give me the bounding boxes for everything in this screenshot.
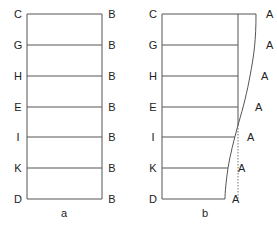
panel-b-left-label: E bbox=[149, 101, 156, 113]
panel-a-left-label: C bbox=[14, 8, 22, 20]
panel-b-right-label: A bbox=[238, 162, 246, 174]
panel-b-right-label: A bbox=[266, 39, 274, 51]
panel-a-left-label: I bbox=[16, 131, 19, 143]
panel-a-left-label: H bbox=[14, 70, 22, 82]
panel-b-right-label: A bbox=[255, 101, 263, 113]
panel-b-left-label: D bbox=[149, 193, 157, 205]
panel-b-right-label: A bbox=[232, 193, 240, 205]
panel-a-right-label: B bbox=[108, 131, 115, 143]
panel-b: CGHEIKD AAAAAAA b bbox=[149, 8, 274, 219]
panel-a: CGHEIKD BBBBBBB a bbox=[14, 8, 116, 219]
panel-a-right-label: B bbox=[108, 70, 115, 82]
panel-b-left-label: H bbox=[149, 70, 157, 82]
panel-a-left-label: E bbox=[14, 101, 21, 113]
panel-a-left-label: G bbox=[14, 39, 23, 51]
panel-b-caption: b bbox=[202, 207, 208, 219]
panel-b-right-label: A bbox=[266, 8, 274, 20]
diagram: CGHEIKD BBBBBBB a CGHEIKD AAAAAAA b bbox=[0, 0, 277, 228]
panel-b-right-label: A bbox=[261, 70, 269, 82]
panel-a-left-label: K bbox=[14, 162, 22, 174]
panel-b-left-label: G bbox=[149, 39, 158, 51]
panel-a-right-label: B bbox=[108, 162, 115, 174]
panel-b-left-label: C bbox=[149, 8, 157, 20]
panel-b-left-label: I bbox=[151, 131, 154, 143]
panel-a-caption: a bbox=[61, 207, 68, 219]
panel-a-right-label: B bbox=[108, 39, 115, 51]
panel-a-right-label: B bbox=[108, 193, 115, 205]
panel-b-right-label: A bbox=[247, 131, 255, 143]
panel-a-right-label: B bbox=[108, 101, 115, 113]
panel-a-left-label: D bbox=[14, 193, 22, 205]
panel-a-right-label: B bbox=[108, 8, 115, 20]
panel-b-left-label: K bbox=[149, 162, 157, 174]
